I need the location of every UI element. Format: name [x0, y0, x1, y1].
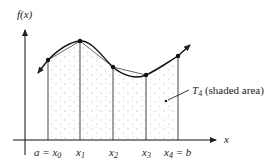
- tick-label-x4: x4 = b: [163, 146, 192, 160]
- diagram-canvas: f(x) x a = x0 x1 x2 x3 x4 = b T4 (shaded…: [0, 0, 275, 164]
- annotation-label: T4 (shaded area): [192, 84, 264, 98]
- trapezoid-rule-diagram: f(x) x a = x0 x1 x2 x3 x4 = b T4 (shaded…: [0, 0, 275, 164]
- annotation-dot: [165, 100, 168, 103]
- function-curve-left-tail: [38, 60, 48, 73]
- tick-labels: a = x0 x1 x2 x3 x4 = b: [34, 146, 192, 160]
- tick-label-x0: a = x0: [34, 146, 61, 160]
- x-axis-label: x: [223, 133, 229, 145]
- y-axis-label: f(x): [17, 8, 33, 21]
- tick-label-x3: x3: [141, 146, 151, 160]
- tick-label-x1: x1: [75, 146, 85, 160]
- tick-label-x2: x2: [108, 146, 118, 160]
